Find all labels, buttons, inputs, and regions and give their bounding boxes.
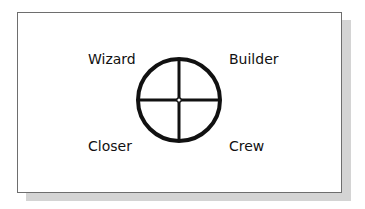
label-wizard: Wizard: [88, 52, 136, 66]
label-builder: Builder: [229, 52, 279, 66]
label-closer: Closer: [88, 139, 132, 153]
center-hub: [177, 98, 181, 102]
quadrant-wheel: [0, 0, 365, 209]
label-crew: Crew: [229, 139, 264, 153]
